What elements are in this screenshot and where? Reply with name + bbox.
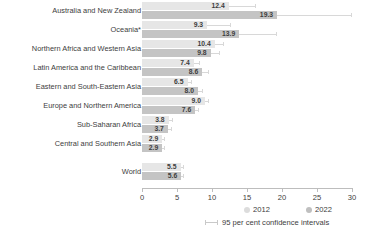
confidence-interval-cap-2022 [164,146,165,150]
bar-value-label-2012: 3.8 [144,116,165,124]
confidence-interval-cap-2022 [198,108,199,112]
chart-row: Sub-Saharan Africa3.83.7 [0,115,365,134]
x-axis-tick [212,188,213,192]
confidence-interval-cap-2012 [183,165,184,169]
bar-value-label-2022: 13.9 [144,30,235,38]
bar-value-label-2012: 10.4 [144,40,211,48]
x-axis-tick [317,188,318,192]
legend-label-2022: 2022 [315,205,332,214]
legend-item-2012[interactable]: 2012 [244,204,270,215]
chart-row: World5.55.6 [0,162,365,181]
bar-value-label-2022: 19.3 [144,11,273,19]
category-label: Latin America and the Caribbean [3,58,141,77]
legend-label-2012: 2012 [253,205,270,214]
confidence-interval-cap-2012 [199,61,200,65]
bar-value-label-2012: 12.4 [144,2,225,10]
legend-item-2022[interactable]: 2022 [306,204,332,215]
bar-value-label-2022: 3.7 [144,125,164,133]
bar-value-label-2012: 6.5 [144,78,184,86]
bar-value-label-2022: 7.6 [144,106,191,114]
confidence-interval-cap-2022 [171,127,172,131]
legend-label-confidence-interval: 95 per cent confidence intervals [222,218,329,227]
confidence-interval-cap-2012 [191,80,192,84]
confidence-interval-cap-2012 [172,118,173,122]
x-axis-tick-label: 30 [340,193,364,202]
category-label: World [3,162,141,181]
chart-row: Central and Southern Asia2.92.9 [0,134,365,153]
bar-value-label-2022: 9.8 [144,49,207,57]
category-label: Eastern and South-Eastern Asia [3,77,141,96]
x-axis-tick-label: 15 [235,193,259,202]
confidence-interval-cap-2022 [202,89,203,93]
category-label: Sub-Saharan Africa [3,115,141,134]
x-axis-tick-label: 5 [165,193,189,202]
chart-row: Australia and New Zealand12.419.3 [0,1,365,20]
chart-container: Australia and New Zealand12.419.3Oceania… [0,0,365,231]
category-label: Australia and New Zealand [3,1,141,20]
confidence-interval-cap-2012 [230,23,231,27]
confidence-interval-icon [205,222,218,223]
x-axis-tick [177,188,178,192]
bar-value-label-2012: 2.9 [144,135,158,143]
x-axis-tick-label: 25 [305,193,329,202]
chart-row: Latin America and the Caribbean7.48.6 [0,58,365,77]
category-label: Oceania* [3,20,141,39]
x-axis-tick [142,188,143,192]
x-axis-tick [282,188,283,192]
chart-row: Oceania*9.313.9 [0,20,365,39]
bar-value-label-2012: 7.4 [144,59,190,67]
category-label: Europe and Northern America [3,96,141,115]
x-axis-tick [352,188,353,192]
confidence-interval-cap-2022 [219,51,220,55]
bar-value-label-2012: 9.3 [144,21,203,29]
bar-value-label-2022: 5.6 [144,172,177,180]
x-axis-tick-label: 20 [270,193,294,202]
confidence-interval-cap-2022 [276,32,277,36]
bar-value-label-2012: 5.5 [144,163,177,171]
category-label: Central and Southern Asia [3,134,141,153]
confidence-interval-cap-2012 [223,42,224,46]
chart-row: Northern Africa and Western Asia10.49.8 [0,39,365,58]
chart-row: Europe and Northern America9.07.6 [0,96,365,115]
confidence-interval-cap-2012 [164,137,165,141]
x-axis-tick [247,188,248,192]
bar-value-label-2022: 8.0 [144,87,194,95]
confidence-interval-cap-2022 [351,13,352,17]
bar-value-label-2012: 9.0 [144,97,201,105]
bar-value-label-2022: 2.9 [144,144,158,152]
x-axis-tick-label: 10 [200,193,224,202]
confidence-interval-cap-2022 [208,70,209,74]
legend-item-confidence-interval: 95 per cent confidence intervals [205,217,329,228]
confidence-interval-cap-2012 [208,99,209,103]
confidence-interval-cap-2012 [255,4,256,8]
legend-swatch-2022-icon [306,207,312,213]
legend-swatch-2012-icon [244,207,250,213]
confidence-interval-cap-2022 [183,174,184,178]
bar-value-label-2022: 8.6 [144,68,198,76]
x-axis-tick-label: 0 [130,193,154,202]
category-label: Northern Africa and Western Asia [3,39,141,58]
chart-row: Eastern and South-Eastern Asia6.58.0 [0,77,365,96]
